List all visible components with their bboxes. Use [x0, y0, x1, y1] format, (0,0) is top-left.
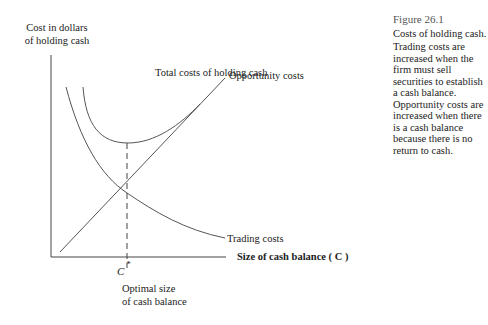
- figure-number: Figure 26.1: [393, 14, 488, 26]
- optimal-size-line2: of cash balance: [122, 295, 187, 308]
- trading-costs-label: Trading costs: [227, 233, 284, 244]
- optimal-size-line1: Optimal size: [122, 282, 187, 295]
- y-axis-label-line1: Cost in dollars: [2, 21, 112, 34]
- y-axis-label-line2: of holding cash: [2, 34, 112, 47]
- c-star-asterisk: *: [126, 259, 131, 269]
- figure-description: Trading costs are increased when the fir…: [393, 41, 488, 156]
- figure-title: Costs of holding cash.: [393, 28, 488, 40]
- opportunity-costs-line: [60, 78, 225, 252]
- optimal-size-label: Optimal size of cash balance: [122, 282, 187, 308]
- x-axis-label: Size of cash balance ( C ): [237, 251, 348, 262]
- y-axis-label: Cost in dollars of holding cash: [2, 21, 112, 47]
- c-star-letter: C: [117, 265, 124, 277]
- opportunity-costs-label: Opportunity costs: [229, 70, 304, 81]
- total-costs-curve: [83, 87, 200, 143]
- figure-caption: Figure 26.1 Costs of holding cash. Tradi…: [393, 14, 488, 156]
- c-star-label: C*: [117, 262, 131, 277]
